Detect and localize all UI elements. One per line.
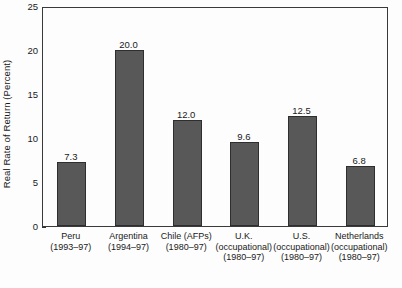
- y-tick-text: 5: [14, 178, 38, 188]
- y-tick-text: 20: [14, 46, 38, 56]
- y-tick-label: 10: [14, 134, 38, 144]
- bar-chart: Real Rate of Return (Percent) 2520151050…: [0, 0, 402, 288]
- bar: [230, 142, 259, 226]
- y-tick-text: 10: [14, 134, 38, 144]
- x-category-label: Netherlands(occupational)(1980–97): [325, 231, 393, 263]
- x-category-line: Netherlands: [325, 231, 393, 242]
- bar-value-label: 12.5: [272, 105, 332, 116]
- bar-value-label: 20.0: [99, 39, 159, 50]
- bar: [346, 166, 375, 226]
- bar-value-label: 12.0: [156, 109, 216, 120]
- y-tick-text: 0: [14, 222, 38, 232]
- y-tick-text: 15: [14, 90, 38, 100]
- bar: [57, 162, 86, 226]
- y-tick-label: 25: [14, 2, 38, 12]
- bar-value-label: 6.8: [329, 155, 389, 166]
- y-tick-label: 20: [14, 46, 38, 56]
- y-tick-label: 15: [14, 90, 38, 100]
- y-tick-label: 0: [14, 222, 38, 232]
- bar-value-label: 9.6: [214, 131, 274, 142]
- y-tick-mark: [42, 227, 46, 228]
- bar: [115, 50, 144, 226]
- x-category-line: (occupational): [325, 242, 393, 253]
- y-axis-title: Real Rate of Return (Percent): [0, 14, 14, 234]
- y-tick-label: 5: [14, 178, 38, 188]
- bar: [288, 116, 317, 226]
- x-category-line: (1980–97): [325, 252, 393, 263]
- bar-value-label: 7.3: [41, 151, 101, 162]
- y-tick-text: 25: [14, 2, 38, 12]
- bar: [173, 120, 202, 226]
